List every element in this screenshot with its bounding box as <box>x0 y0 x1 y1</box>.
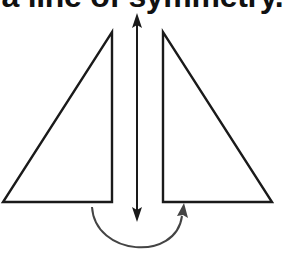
left-triangle <box>3 32 112 202</box>
line-of-symmetry-double-arrow <box>132 13 142 222</box>
symmetry-diagram <box>0 0 285 254</box>
curved-arrowhead-icon <box>177 203 188 218</box>
right-triangle <box>163 32 272 202</box>
